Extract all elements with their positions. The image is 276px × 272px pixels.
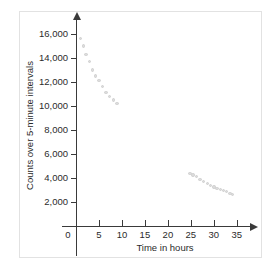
data-point xyxy=(94,74,97,77)
x-axis-tick-label: 0 xyxy=(58,229,78,240)
data-point xyxy=(79,37,82,40)
data-point xyxy=(231,193,234,196)
x-axis-tick xyxy=(99,220,100,226)
y-axis-tick xyxy=(71,106,77,107)
x-axis-tick xyxy=(191,220,192,226)
y-axis-tick-label: 14,000 xyxy=(39,53,68,63)
data-point xyxy=(108,95,111,98)
x-axis-tick xyxy=(122,220,123,226)
x-axis-tick xyxy=(237,220,238,226)
y-axis-tick xyxy=(71,58,77,59)
data-point xyxy=(84,53,87,56)
data-point xyxy=(202,180,205,183)
y-axis-tick xyxy=(71,130,77,131)
data-point xyxy=(112,98,115,101)
x-axis-tick-label: 35 xyxy=(227,229,247,240)
y-axis-tick xyxy=(71,34,77,35)
x-axis-line xyxy=(62,226,252,227)
x-axis-tick xyxy=(145,220,146,226)
y-axis-tick xyxy=(71,154,77,155)
y-axis-tick-label: 4,000 xyxy=(44,173,68,183)
x-axis-arrow-icon xyxy=(250,223,258,231)
y-axis-line xyxy=(76,16,77,256)
x-axis-tick-label: 10 xyxy=(112,229,132,240)
y-axis-title: Counts over 5-minute intervals xyxy=(24,46,35,206)
x-axis-title: Time in hours xyxy=(90,242,240,253)
y-axis-tick-label: 8,000 xyxy=(44,125,68,135)
x-axis-tick-label: 25 xyxy=(181,229,201,240)
x-axis-tick xyxy=(168,220,169,226)
y-axis-tick xyxy=(71,202,77,203)
data-point xyxy=(104,91,107,94)
x-axis-tick-label: 15 xyxy=(135,229,155,240)
data-point xyxy=(88,60,91,63)
x-axis-tick-label: 5 xyxy=(89,229,109,240)
y-axis-tick xyxy=(71,82,77,83)
y-axis-tick xyxy=(71,178,77,179)
data-point xyxy=(115,102,118,105)
y-axis-tick-label: 6,000 xyxy=(44,149,68,159)
y-axis-tick-label: 12,000 xyxy=(39,77,68,87)
x-axis-tick xyxy=(214,220,215,226)
x-axis-tick-label: 30 xyxy=(204,229,224,240)
scatter-plot: 2,0004,0006,0008,00010,00012,00014,00016… xyxy=(0,0,276,272)
y-axis-tick-label: 10,000 xyxy=(39,101,68,111)
y-axis-tick-label: 16,000 xyxy=(39,29,68,39)
y-axis-tick-label: 2,000 xyxy=(44,197,68,207)
data-point xyxy=(91,68,94,71)
data-point xyxy=(82,44,85,47)
y-axis-arrow-icon xyxy=(73,12,81,20)
x-axis-tick-label: 20 xyxy=(158,229,178,240)
figure-container: 2,0004,0006,0008,00010,00012,00014,00016… xyxy=(0,0,276,272)
data-point xyxy=(97,79,100,82)
data-point xyxy=(101,85,104,88)
